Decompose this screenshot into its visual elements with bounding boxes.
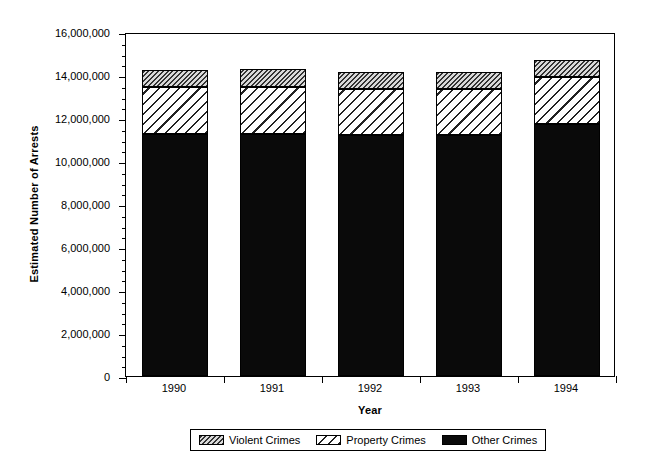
y-axis-tick-label: 8,000,000 bbox=[61, 199, 110, 211]
bar-segment-other-crimes[interactable] bbox=[436, 135, 502, 376]
y-axis-minor-tick bbox=[122, 238, 126, 239]
bar-segment-property-crimes[interactable] bbox=[338, 89, 404, 135]
legend-label: Violent Crimes bbox=[229, 434, 300, 446]
legend-swatch-icon bbox=[199, 435, 224, 445]
x-axis-tick bbox=[126, 376, 127, 383]
legend-label: Other Crimes bbox=[472, 434, 537, 446]
y-axis-minor-tick bbox=[122, 56, 126, 57]
y-axis-tick-label: 16,000,000 bbox=[55, 27, 110, 39]
x-axis-tick-label: 1990 bbox=[134, 382, 214, 394]
x-axis-tick bbox=[322, 376, 323, 383]
y-axis-minor-tick bbox=[122, 66, 126, 67]
y-axis-minor-tick bbox=[122, 195, 126, 196]
y-axis-minor-tick bbox=[122, 185, 126, 186]
bar-1992[interactable] bbox=[338, 32, 404, 376]
y-axis-minor-tick bbox=[122, 314, 126, 315]
bar-segment-violent-crimes[interactable] bbox=[534, 60, 600, 77]
y-axis-minor-tick bbox=[122, 260, 126, 261]
chart-figure: Estimated Number of Arrests 02,000,0004,… bbox=[0, 0, 649, 458]
bar-segment-violent-crimes[interactable] bbox=[240, 69, 306, 87]
y-axis-minor-tick bbox=[122, 99, 126, 100]
bar-segment-violent-crimes[interactable] bbox=[142, 70, 208, 87]
bar-segment-property-crimes[interactable] bbox=[240, 87, 306, 134]
y-axis-tick-label: 12,000,000 bbox=[55, 113, 110, 125]
bar-segment-other-crimes[interactable] bbox=[338, 135, 404, 376]
y-axis-minor-tick bbox=[122, 45, 126, 46]
bar-segment-violent-crimes[interactable] bbox=[436, 72, 502, 89]
bar-1990[interactable] bbox=[142, 32, 208, 376]
y-axis-major-tick bbox=[119, 378, 126, 379]
y-axis-tick-label: 0 bbox=[104, 371, 110, 383]
bar-segment-property-crimes[interactable] bbox=[534, 77, 600, 124]
y-axis-major-tick bbox=[119, 292, 126, 293]
y-axis-tick-label: 6,000,000 bbox=[61, 242, 110, 254]
y-axis-minor-tick bbox=[122, 131, 126, 132]
y-axis-minor-tick bbox=[122, 271, 126, 272]
plot-area bbox=[125, 33, 615, 377]
y-axis-tick-label: 14,000,000 bbox=[55, 70, 110, 82]
legend-swatch-icon bbox=[442, 435, 467, 445]
y-axis-minor-tick bbox=[122, 324, 126, 325]
bar-segment-property-crimes[interactable] bbox=[436, 89, 502, 135]
x-axis-tick-label: 1994 bbox=[526, 382, 606, 394]
y-axis-minor-tick bbox=[122, 303, 126, 304]
y-axis-tick-label: 4,000,000 bbox=[61, 285, 110, 297]
legend-swatch-icon bbox=[316, 435, 341, 445]
bar-1994[interactable] bbox=[534, 32, 600, 376]
x-axis-tick-label: 1991 bbox=[232, 382, 312, 394]
y-axis-minor-tick bbox=[122, 357, 126, 358]
bar-segment-other-crimes[interactable] bbox=[534, 124, 600, 376]
x-axis-tick-label: 1993 bbox=[428, 382, 508, 394]
x-axis-tick-label: 1992 bbox=[330, 382, 410, 394]
y-axis-major-tick bbox=[119, 34, 126, 35]
y-axis-minor-tick bbox=[122, 367, 126, 368]
y-axis-minor-tick bbox=[122, 228, 126, 229]
y-axis-minor-tick bbox=[122, 109, 126, 110]
chart-legend: Violent CrimesProperty CrimesOther Crime… bbox=[190, 429, 546, 451]
y-axis-major-tick bbox=[119, 206, 126, 207]
bar-segment-violent-crimes[interactable] bbox=[338, 72, 404, 89]
legend-item-other-crimes[interactable]: Other Crimes bbox=[442, 434, 537, 446]
y-axis-tick-labels: 02,000,0004,000,0006,000,0008,000,00010,… bbox=[0, 0, 118, 458]
y-axis-minor-tick bbox=[122, 281, 126, 282]
y-axis-minor-tick bbox=[122, 142, 126, 143]
legend-label: Property Crimes bbox=[346, 434, 425, 446]
legend-item-property-crimes[interactable]: Property Crimes bbox=[316, 434, 425, 446]
bar-segment-other-crimes[interactable] bbox=[142, 134, 208, 376]
bar-1991[interactable] bbox=[240, 32, 306, 376]
legend-item-violent-crimes[interactable]: Violent Crimes bbox=[199, 434, 300, 446]
y-axis-tick-label: 2,000,000 bbox=[61, 328, 110, 340]
x-axis-title: Year bbox=[125, 404, 615, 416]
y-axis-minor-tick bbox=[122, 346, 126, 347]
y-axis-minor-tick bbox=[122, 152, 126, 153]
y-axis-major-tick bbox=[119, 335, 126, 336]
y-axis-minor-tick bbox=[122, 217, 126, 218]
bar-segment-property-crimes[interactable] bbox=[142, 87, 208, 134]
y-axis-major-tick bbox=[119, 163, 126, 164]
y-axis-major-tick bbox=[119, 249, 126, 250]
x-axis-tick bbox=[224, 376, 225, 383]
x-axis-tick bbox=[420, 376, 421, 383]
y-axis-minor-tick bbox=[122, 88, 126, 89]
bar-1993[interactable] bbox=[436, 32, 502, 376]
y-axis-major-tick bbox=[119, 77, 126, 78]
x-axis-tick bbox=[518, 376, 519, 383]
bar-segment-other-crimes[interactable] bbox=[240, 134, 306, 376]
x-axis-tick bbox=[616, 376, 617, 383]
y-axis-tick-label: 10,000,000 bbox=[55, 156, 110, 168]
y-axis-major-tick bbox=[119, 120, 126, 121]
y-axis-minor-tick bbox=[122, 174, 126, 175]
